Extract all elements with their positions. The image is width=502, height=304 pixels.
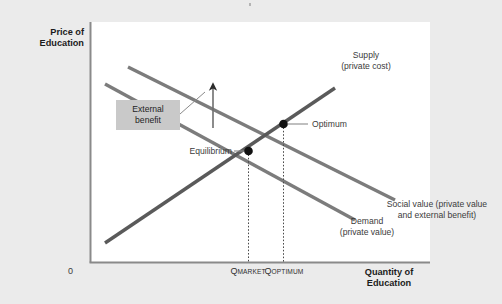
demand-label-line2: (private value) xyxy=(330,227,404,238)
social-value-curve xyxy=(128,67,395,200)
equilibrium-point xyxy=(244,147,253,156)
optimum-point xyxy=(279,120,288,129)
q-optimum-symbol: Q xyxy=(265,266,272,276)
tick-label-q-optimum: QOPTIMUM xyxy=(257,266,311,276)
q-optimum-subscript: OPTIMUM xyxy=(272,268,304,275)
social-value-curve-label: Social value (private value and external… xyxy=(375,199,499,220)
supply-curve-label: Supply (private cost) xyxy=(330,50,402,71)
external-benefit-line2: benefit xyxy=(135,115,161,126)
x-axis-title-line2: Education xyxy=(367,278,411,288)
x-axis-title-line1: Quantity of xyxy=(365,267,414,277)
supply-label-line1: Supply xyxy=(353,50,379,60)
figure-container: Price of Education Quantity of Education… xyxy=(0,0,502,304)
social-label-line2: and external benefit) xyxy=(375,210,499,221)
y-axis-title-line1: Price of xyxy=(50,27,84,37)
social-label-line1: Social value (private value xyxy=(387,199,487,209)
y-axis-title-line2: Education xyxy=(40,38,84,48)
supply-label-line2: (private cost) xyxy=(330,61,402,72)
external-benefit-line1: External xyxy=(132,104,164,115)
external-benefit-callout: External benefit xyxy=(116,100,180,130)
origin-label: 0 xyxy=(68,266,82,277)
x-axis-title: Quantity of Education xyxy=(352,267,426,290)
y-axis-title: Price of Education xyxy=(6,27,84,50)
optimum-label: Optimum xyxy=(312,119,364,130)
equilibrium-label: Equilibrium xyxy=(174,146,232,157)
